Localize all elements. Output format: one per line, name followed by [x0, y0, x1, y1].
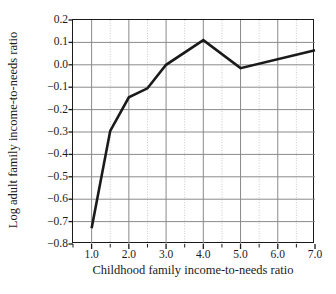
y-tick-label: −0.2 — [47, 104, 68, 116]
x-tick-label: 1.0 — [84, 249, 98, 261]
y-tick-label: 0.1 — [54, 37, 68, 49]
x-tick-label: 4.0 — [196, 249, 210, 261]
plot-area: 0.20.10.0−0.1−0.2−0.3−0.4−0.5−0.6−0.7−0.… — [72, 19, 314, 243]
x-tick-label: 2.0 — [122, 249, 136, 261]
y-tick-label: −0.3 — [47, 126, 68, 138]
x-tick-label: 6.0 — [271, 249, 285, 261]
y-tick-label: 0.2 — [54, 14, 68, 26]
y-tick-label: −0.4 — [47, 149, 68, 161]
y-tick-label: −0.5 — [47, 171, 68, 183]
y-tick-label: −0.6 — [47, 193, 68, 205]
x-tick-label: 7.0 — [308, 249, 322, 261]
x-tick-label: 5.0 — [233, 249, 247, 261]
y-tick-label: −0.7 — [47, 216, 68, 228]
y-tick-label: −0.8 — [47, 238, 68, 250]
x-tick-label: 3.0 — [159, 249, 173, 261]
y-tick-label: 0.0 — [54, 59, 68, 71]
plot-canvas — [73, 20, 315, 244]
chart-figure: Log adult family income-to-needs ratio 0… — [0, 0, 336, 294]
y-tick-label: −0.1 — [47, 81, 68, 93]
y-axis-title: Log adult family income-to-needs ratio — [4, 14, 22, 246]
x-axis-title: Childhood family income-to-needs ratio — [72, 263, 314, 278]
